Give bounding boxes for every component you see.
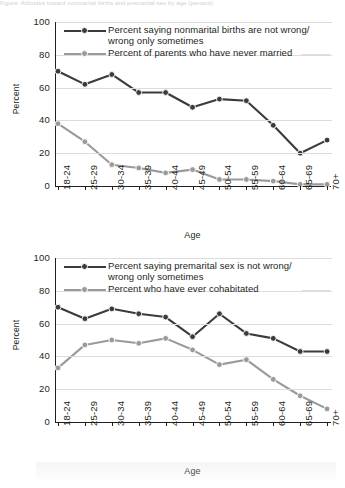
y-axis-label: Percent [11, 305, 21, 365]
legend-label: Percent saying premarital sex is not wro… [108, 260, 292, 282]
data-point [297, 393, 303, 399]
data-point [82, 342, 88, 348]
gridline [56, 389, 332, 390]
y-tick-label: 40 [24, 350, 50, 361]
y-tick-label: 40 [24, 114, 50, 125]
x-tick-label: 30-34 [115, 165, 126, 190]
data-point [324, 137, 330, 143]
x-tick-label: 55-59 [249, 165, 260, 190]
gridline [56, 324, 332, 325]
data-point [297, 349, 303, 355]
legend-label: Percent who have ever cohabitated [108, 283, 259, 294]
y-axis-label: Percent [11, 69, 21, 129]
data-point [190, 104, 196, 110]
gridline [302, 290, 330, 291]
chart-premarital-sex: Percent 100806040200 Percent saying prem… [0, 244, 345, 480]
x-tick-label: 18-24 [61, 165, 72, 190]
data-point [136, 90, 142, 96]
x-axis-ticks: 18-2425-2930-3435-3940-4445-4950-5455-59… [55, 426, 330, 466]
y-tick-label: 80 [24, 49, 50, 60]
data-point [243, 357, 249, 363]
x-tick-label: 25-29 [88, 401, 99, 426]
gridline [56, 120, 332, 121]
gridline [302, 54, 330, 55]
data-point [109, 337, 115, 343]
legend-item: Percent who have ever cohabitated [62, 283, 330, 296]
legend: Percent saying nonmarital births are not… [62, 24, 330, 61]
data-point [163, 90, 169, 96]
legend-marker-icon [62, 25, 108, 37]
data-point [55, 365, 61, 371]
x-tick-label: 70+ [330, 173, 341, 190]
x-tick-label: 18-24 [61, 401, 72, 426]
x-tick-label: 25-29 [88, 165, 99, 190]
x-tick-label: 50-54 [222, 401, 233, 426]
x-tick-label: 50-54 [222, 165, 233, 190]
x-tick-label: 70+ [330, 409, 341, 426]
legend-marker-icon [62, 284, 108, 296]
data-point [243, 98, 249, 104]
data-point [136, 311, 142, 317]
gridline [56, 22, 332, 23]
data-point [109, 72, 115, 78]
x-axis-label: Age [55, 230, 330, 240]
data-point [324, 349, 330, 355]
x-tick-label: 40-44 [169, 401, 180, 426]
series-line [58, 71, 327, 153]
data-point [217, 311, 223, 317]
data-point [270, 376, 276, 382]
data-point [82, 81, 88, 87]
data-point [163, 314, 169, 320]
legend: Percent saying premarital sex is not wro… [62, 260, 330, 297]
gridline [56, 88, 332, 89]
y-tick-label: 100 [24, 252, 50, 263]
y-tick-label: 0 [24, 416, 50, 427]
x-tick-label: 65-69 [303, 165, 314, 190]
legend-marker-icon [62, 48, 108, 60]
chart-nonmarital-births: Percent 100806040200 Percent saying nonm… [0, 8, 345, 244]
x-axis-label: Age [55, 466, 330, 476]
y-tick-label: 60 [24, 82, 50, 93]
data-point [217, 96, 223, 102]
data-point [243, 331, 249, 337]
data-point [163, 170, 169, 176]
y-tick-label: 60 [24, 318, 50, 329]
y-tick-label: 80 [24, 285, 50, 296]
legend-label: Percent saying nonmarital births are not… [108, 24, 309, 46]
legend-item: Percent saying premarital sex is not wro… [62, 260, 330, 282]
x-tick-label: 65-69 [303, 401, 314, 426]
y-tick-label: 20 [24, 147, 50, 158]
x-tick-label: 45-49 [196, 401, 207, 426]
data-point [190, 167, 196, 173]
x-tick-label: 45-49 [196, 165, 207, 190]
x-tick-label: 30-34 [115, 401, 126, 426]
data-point [136, 165, 142, 171]
legend-label: Percent of parents who have never marrie… [108, 47, 292, 58]
y-axis-ticks: 100806040200 [22, 244, 50, 414]
x-tick-label: 35-39 [142, 401, 153, 426]
x-tick-label: 35-39 [142, 165, 153, 190]
data-point [55, 68, 61, 74]
data-point [109, 162, 115, 168]
y-tick-label: 100 [24, 16, 50, 27]
y-axis-ticks: 100806040200 [22, 8, 50, 178]
data-point [55, 304, 61, 310]
gridline [56, 153, 332, 154]
y-tick-label: 0 [24, 180, 50, 191]
data-point [136, 340, 142, 346]
series-line [58, 307, 327, 351]
data-point [217, 362, 223, 368]
data-point [109, 306, 115, 312]
data-point [55, 121, 61, 127]
x-tick-label: 60-64 [276, 165, 287, 190]
y-tick-label: 20 [24, 383, 50, 394]
data-point [270, 335, 276, 341]
legend-item: Percent saying nonmarital births are not… [62, 24, 330, 46]
data-point [190, 347, 196, 353]
x-tick-label: 40-44 [169, 165, 180, 190]
data-point [82, 139, 88, 145]
data-point [190, 334, 196, 340]
x-axis-ticks: 18-2425-2930-3435-3940-4445-4950-5455-59… [55, 190, 330, 230]
top-caption: Figure: Attitudes toward nonmarital birt… [0, 0, 345, 7]
data-point [163, 335, 169, 341]
